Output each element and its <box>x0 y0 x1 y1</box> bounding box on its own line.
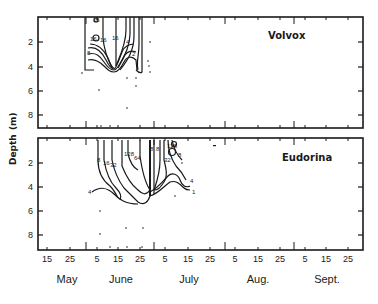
month-june: June <box>109 273 133 285</box>
svg-text:5: 5 <box>94 254 99 264</box>
svg-text:25: 25 <box>65 254 75 264</box>
svg-text:4: 4 <box>88 189 92 195</box>
svg-text:25: 25 <box>275 254 285 264</box>
svg-text:32: 32 <box>110 162 117 168</box>
eudorina-ytick-2: 2 <box>28 158 33 168</box>
svg-text:25: 25 <box>135 254 145 264</box>
depth-time-chart: 2 4 6 8 Volvox <box>0 0 378 304</box>
volvox-contour-labels: 8 16 16 16 16 4 2 <box>87 17 136 57</box>
svg-text:25: 25 <box>343 254 353 264</box>
y-axis-title-unit: (m) <box>8 112 18 130</box>
volvox-ytick-6: 6 <box>28 86 33 96</box>
month-may: May <box>57 273 78 285</box>
svg-text:16: 16 <box>100 37 107 43</box>
eudorina-ytick-6: 6 <box>28 206 33 216</box>
svg-text:32: 32 <box>164 157 171 163</box>
svg-text:4: 4 <box>190 178 194 184</box>
svg-text:128: 128 <box>167 143 178 149</box>
svg-text:15: 15 <box>321 254 331 264</box>
svg-text:15: 15 <box>253 254 263 264</box>
eudorina-panel: 2 4 6 8 Eudorina <box>28 138 363 250</box>
month-sept: Sept. <box>314 273 340 285</box>
volvox-frame <box>38 17 363 128</box>
x-axis-month-labels: May June July Aug. Sept. <box>57 273 340 285</box>
y-axis-title-depth: Depth <box>8 134 18 165</box>
svg-text:25: 25 <box>205 254 215 264</box>
svg-text:1: 1 <box>192 189 196 195</box>
volvox-ytick-8: 8 <box>28 110 33 120</box>
svg-text:15: 15 <box>113 254 123 264</box>
svg-text:16: 16 <box>93 17 100 23</box>
eudorina-ytick-4: 4 <box>28 182 33 192</box>
svg-text:15: 15 <box>42 254 52 264</box>
eudorina-title: Eudorina <box>282 152 332 163</box>
svg-text:8: 8 <box>178 152 182 158</box>
svg-text:5: 5 <box>162 254 167 264</box>
eudorina-y-ticks <box>38 163 363 235</box>
svg-text:5: 5 <box>232 254 237 264</box>
svg-text:16: 16 <box>112 35 119 41</box>
volvox-title: Volvox <box>268 30 306 41</box>
month-aug: Aug. <box>247 273 270 285</box>
eudorina-contours <box>92 140 190 204</box>
volvox-contours <box>85 17 142 73</box>
eudorina-ytick-8: 8 <box>28 230 33 240</box>
svg-text:5: 5 <box>302 254 307 264</box>
month-july: July <box>179 273 199 285</box>
volvox-ytick-2: 2 <box>28 37 33 47</box>
svg-text:8: 8 <box>97 157 101 163</box>
volvox-ytick-4: 4 <box>28 62 33 72</box>
svg-text:15: 15 <box>183 254 193 264</box>
svg-text:16: 16 <box>90 36 97 42</box>
volvox-panel: 2 4 6 8 Volvox <box>28 17 363 128</box>
x-axis-day-labels: 15 25 5 15 25 5 15 25 5 15 25 5 15 25 <box>42 254 353 264</box>
svg-text:64: 64 <box>134 155 141 161</box>
